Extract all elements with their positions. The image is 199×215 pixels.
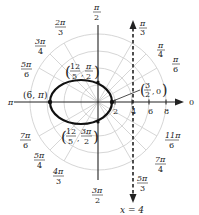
angle-label-pi-over-3: π 3 — [139, 19, 147, 37]
svg-text:12: 12 — [70, 62, 80, 71]
svg-text:π: π — [93, 3, 100, 12]
angle-label-3pi-over-2: 3π 2 — [92, 186, 103, 205]
svg-text:3: 3 — [56, 177, 61, 186]
polar-graph-figure: 2 4 6 8 x = 4 π 2 π 3 π — [0, 0, 199, 215]
svg-text:6: 6 — [169, 141, 174, 150]
angle-label-pi: π — [7, 98, 14, 107]
svg-text:7π: 7π — [155, 155, 166, 164]
angle-label-pi-over-6: π 6 — [172, 55, 180, 74]
svg-text:3: 3 — [58, 28, 63, 37]
angle-label-5pi-over-6: 5π 6 — [21, 60, 32, 79]
svg-text:12: 12 — [66, 127, 76, 136]
svg-text:2π: 2π — [54, 18, 66, 27]
point-bottom — [96, 120, 99, 123]
svg-text:3π: 3π — [35, 37, 46, 46]
svg-text:3: 3 — [145, 81, 150, 90]
svg-text:): ) — [94, 63, 100, 81]
svg-text:,: , — [81, 69, 84, 78]
svg-text:0: 0 — [156, 87, 161, 96]
svg-text:4: 4 — [158, 165, 163, 174]
svg-text:6: 6 — [24, 70, 29, 79]
tick-label-6: 6 — [148, 107, 153, 116]
svg-text:2: 2 — [94, 13, 99, 22]
point-label-12-5-pi-2: ( 12 5 , π 2 ) — [65, 62, 100, 81]
svg-text:5π: 5π — [21, 60, 32, 69]
point-label-6-pi: (6, π) — [23, 90, 47, 100]
directrix-label: x = 4 — [120, 205, 144, 215]
svg-text:(6, π): (6, π) — [23, 90, 47, 100]
svg-text:5π: 5π — [34, 151, 45, 160]
svg-text:4π: 4π — [52, 167, 64, 176]
axis-arrow-icon — [175, 99, 184, 106]
radial-tick-labels: 2 4 6 8 — [113, 107, 169, 116]
svg-text:6: 6 — [173, 65, 178, 74]
svg-text:π: π — [157, 41, 164, 50]
svg-text:3π: 3π — [92, 186, 103, 195]
directrix-arrow-up-icon — [130, 20, 137, 29]
angle-label-7pi-over-6: 7π 6 — [20, 131, 31, 150]
svg-text:5: 5 — [68, 137, 73, 146]
vertex-point-pi — [48, 100, 52, 104]
svg-text:4: 4 — [38, 47, 43, 56]
angle-label-pi-over-4: π 4 — [157, 41, 165, 59]
angle-label-5pi-over-3: 5π 3 — [137, 174, 148, 193]
angle-label-0: 0 — [189, 98, 194, 107]
svg-text:2: 2 — [145, 90, 150, 99]
svg-text:3π: 3π — [81, 127, 92, 136]
svg-text:7π: 7π — [20, 131, 31, 140]
svg-text:3: 3 — [140, 28, 145, 37]
svg-text:5: 5 — [72, 72, 77, 81]
leader-line-zero — [113, 90, 140, 101]
tick-label-2: 2 — [113, 107, 118, 116]
svg-text:): ) — [93, 128, 99, 146]
tick-label-8: 8 — [164, 107, 169, 116]
point-label-3-2-zero: ( 3 2 , 0 ) — [140, 81, 167, 99]
svg-text:3: 3 — [140, 184, 145, 193]
svg-text:6: 6 — [23, 141, 28, 150]
svg-text:): ) — [162, 82, 167, 98]
svg-text:11π: 11π — [165, 131, 181, 140]
directrix-arrow-down-icon — [130, 194, 137, 203]
svg-text:5π: 5π — [137, 174, 148, 183]
point-label-12-5-3pi-2: ( 12 5 , 3π 2 ) — [61, 127, 99, 146]
svg-text:4: 4 — [158, 50, 163, 59]
angle-label-2pi-over-3: 2π 3 — [54, 18, 66, 37]
svg-text:π: π — [85, 62, 92, 71]
angle-label-11pi-over-6: 11π 6 — [165, 131, 181, 150]
svg-text:π: π — [139, 19, 146, 28]
svg-text:4: 4 — [37, 161, 42, 170]
angle-label-7pi-over-4: 7π 4 — [155, 155, 166, 174]
svg-text:2: 2 — [95, 196, 100, 205]
angle-label-4pi-over-3: 4π 3 — [52, 167, 64, 186]
svg-text:2: 2 — [86, 72, 91, 81]
angle-label-5pi-over-4: 5π 4 — [34, 151, 45, 170]
svg-text:π: π — [172, 55, 179, 64]
svg-text:2: 2 — [84, 137, 89, 146]
svg-text:,: , — [152, 87, 155, 96]
svg-text:,: , — [77, 134, 80, 143]
angle-label-3pi-over-4: 3π 4 — [35, 37, 46, 56]
angle-label-pi-over-2: π 2 — [93, 3, 101, 22]
